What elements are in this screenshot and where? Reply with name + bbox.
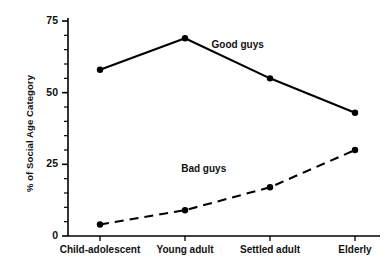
x-tick-label-settled-adult: Settled adult [240, 244, 300, 255]
y-axis-title: % of Social Age Category [24, 44, 35, 224]
y-tick-label-75: 75 [32, 14, 58, 26]
y-tick-label-50: 50 [32, 86, 58, 98]
x-tick-label-elderly: Elderly [338, 244, 371, 255]
y-tick-label-25: 25 [32, 157, 58, 169]
line-chart-plot [0, 0, 389, 261]
y-tick-label-0: 0 [32, 229, 58, 241]
x-tick-label-young-adult: Young adult [156, 244, 213, 255]
series-line-bad-guys [100, 150, 355, 225]
series-annotation-good-guys: Good guys [212, 39, 264, 50]
chart-container: % of Social Age Category 75 50 25 0 Chil… [0, 0, 389, 261]
y-axis-major-ticks [62, 21, 68, 236]
series-annotation-bad-guys: Bad guys [181, 163, 226, 174]
series-markers-bad-guys [97, 147, 358, 228]
x-tick-label-child-adolescent: Child-adolescent [60, 244, 141, 255]
